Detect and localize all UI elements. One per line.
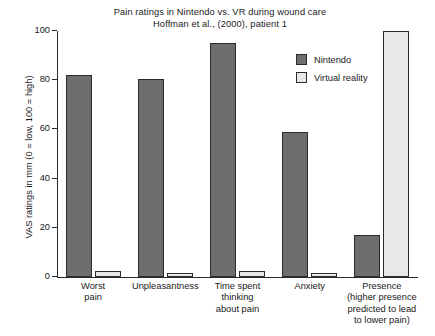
- y-tick-label: 40: [40, 177, 50, 178]
- bar-virtual-reality-0: [95, 271, 121, 277]
- x-axis-line: [57, 277, 418, 278]
- y-tick-label: 20: [40, 226, 50, 227]
- y-tick-label: 100: [34, 30, 50, 31]
- bar-virtual-reality-2: [239, 271, 265, 277]
- chart-title-block: Pain ratings in Nintendo vs. VR during w…: [60, 6, 380, 30]
- x-category-label-line: (higher presence: [334, 292, 430, 303]
- x-category-label-line: about pain: [189, 304, 285, 315]
- y-tick-label: 80: [40, 79, 50, 80]
- y-tick-label: 0: [45, 276, 50, 277]
- bar-group-3: [274, 31, 346, 277]
- x-category-label-line: pain: [45, 292, 141, 303]
- bar-group-2: [201, 31, 273, 277]
- bar-nintendo-2: [210, 43, 236, 277]
- bar-group-0: [57, 31, 129, 277]
- chart-title: Pain ratings in Nintendo vs. VR during w…: [60, 6, 380, 18]
- bar-group-4: [346, 31, 418, 277]
- bar-virtual-reality-3: [311, 273, 337, 277]
- x-category-label-line: thinking: [189, 292, 285, 303]
- bar-nintendo-3: [282, 132, 308, 277]
- y-tick-label: 60: [40, 128, 50, 129]
- bar-nintendo-1: [138, 79, 164, 277]
- x-category-label-line: Presence: [334, 281, 430, 292]
- bar-group-1: [129, 31, 201, 277]
- y-axis-label: VAS ratings in mm (0 = low, 100 = high): [24, 32, 34, 282]
- x-category-label-line: to lower pain): [334, 315, 430, 326]
- x-category-label-line: predicted to lead: [334, 304, 430, 315]
- x-category-label-4: Presence(higher presencepredicted to lea…: [334, 281, 430, 327]
- chart-subtitle: Hoffman et al., (2000), patient 1: [60, 18, 380, 30]
- bar-chart-figure: Pain ratings in Nintendo vs. VR during w…: [0, 0, 435, 336]
- plot-area: 020406080100: [57, 31, 418, 277]
- bar-virtual-reality-4: [383, 31, 409, 277]
- bar-nintendo-0: [66, 75, 92, 277]
- bar-virtual-reality-1: [167, 273, 193, 277]
- bar-nintendo-4: [354, 235, 380, 277]
